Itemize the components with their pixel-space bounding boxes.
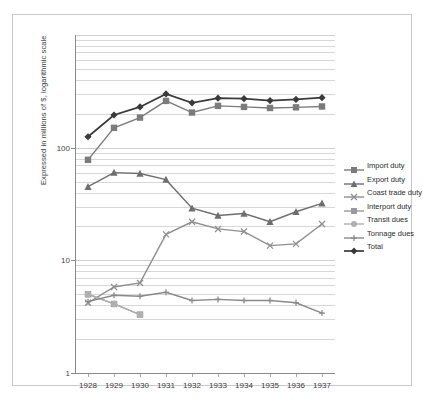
x-axis-line	[75, 373, 335, 374]
series-export-duty	[84, 169, 325, 225]
data-point-diamond	[292, 96, 299, 103]
legend-label: Tonnage dues	[367, 229, 414, 239]
data-point-square	[267, 105, 273, 111]
x-tick-label: 1929	[105, 381, 123, 390]
legend-item-transit-dues[interactable]: Transit dues	[343, 215, 423, 225]
x-tick-label: 1936	[287, 381, 305, 390]
data-point-triangle	[318, 200, 325, 207]
x-tick-label: 1933	[209, 381, 227, 390]
legend-label: Total	[367, 242, 383, 252]
series-total	[84, 90, 325, 140]
legend-label: Import duty	[367, 161, 405, 171]
data-point-square	[351, 167, 357, 173]
y-tick-label: 10	[61, 256, 70, 265]
data-point-x	[319, 221, 325, 227]
data-point-diamond	[136, 103, 143, 110]
legend-item-export-duty[interactable]: Export duty	[343, 175, 423, 185]
series-line	[88, 101, 322, 160]
data-point-circle	[351, 221, 357, 227]
series-line	[88, 292, 322, 313]
data-point-square	[85, 157, 91, 163]
x-tick-label: 1931	[157, 381, 175, 390]
series-import-duty	[85, 98, 325, 163]
data-point-diamond	[188, 99, 195, 106]
legend-marker-triangle-icon	[343, 175, 365, 185]
data-point-square	[215, 103, 221, 109]
chart-legend: Import dutyExport dutyCoast trade dutyIn…	[343, 161, 423, 252]
x-tick-label: 1932	[183, 381, 201, 390]
legend-marker-x-icon	[343, 188, 365, 198]
series-tonnage-dues	[85, 289, 325, 316]
series-coast-trade-duty	[85, 219, 325, 306]
y-axis-title: Expressed in millions of $, logarithmic …	[39, 35, 48, 185]
legend-item-import-duty[interactable]: Import duty	[343, 161, 423, 171]
legend-marker-square-icon	[343, 202, 365, 212]
data-point-plus	[189, 298, 195, 304]
data-point-square	[137, 114, 143, 120]
legend-item-total[interactable]: Total	[343, 242, 423, 252]
data-point-circle	[111, 301, 117, 307]
legend-marker-circle-icon	[343, 215, 365, 225]
data-point-diamond	[318, 94, 325, 101]
legend-label: Export duty	[367, 175, 405, 185]
data-point-plus	[85, 299, 91, 305]
y-tick-label: 1	[66, 369, 70, 378]
x-tick-label: 1935	[261, 381, 279, 390]
data-point-diamond	[351, 248, 358, 255]
series-layer	[75, 35, 335, 373]
chart-frame: Expressed in millions of $, logarithmic …	[12, 14, 412, 386]
data-point-plus	[351, 235, 357, 241]
data-point-x	[163, 231, 169, 237]
legend-label: Interport duty	[367, 202, 411, 212]
data-point-plus	[293, 300, 299, 306]
data-point-square	[189, 109, 195, 115]
data-point-square	[319, 103, 325, 109]
data-point-plus	[241, 298, 247, 304]
legend-marker-square-icon	[343, 161, 365, 171]
chart-page: Expressed in millions of $, logarithmic …	[0, 0, 423, 401]
x-tick-label: 1937	[313, 381, 331, 390]
data-point-plus	[137, 293, 143, 299]
data-point-square	[293, 104, 299, 110]
data-point-diamond	[266, 97, 273, 104]
y-tick-label: 100	[57, 143, 70, 152]
series-line	[88, 173, 322, 222]
x-tick-label: 1928	[79, 381, 97, 390]
data-point-diamond	[240, 95, 247, 102]
series-line	[88, 222, 322, 303]
legend-item-tonnage-dues[interactable]: Tonnage dues	[343, 229, 423, 239]
data-point-square	[163, 98, 169, 104]
plot-area: 110100 192819291930193119321933193419351…	[75, 35, 335, 373]
legend-item-coast-trade-duty[interactable]: Coast trade duty	[343, 188, 423, 198]
data-point-square	[111, 125, 117, 131]
data-point-triangle	[84, 183, 91, 190]
legend-item-interport-duty[interactable]: Interport duty	[343, 202, 423, 212]
legend-marker-plus-icon	[343, 229, 365, 239]
data-point-plus	[267, 298, 273, 304]
data-point-plus	[215, 296, 221, 302]
legend-marker-diamond-icon	[343, 242, 365, 252]
data-point-diamond	[214, 95, 221, 102]
x-tick-label: 1934	[235, 381, 253, 390]
data-point-circle	[85, 291, 91, 297]
data-point-plus	[319, 310, 325, 316]
legend-label: Coast trade duty	[367, 188, 422, 198]
data-point-circle	[137, 311, 143, 317]
data-point-plus	[111, 292, 117, 298]
series-line	[88, 94, 322, 137]
data-point-plus	[163, 289, 169, 295]
data-point-diamond	[162, 90, 169, 97]
data-point-square	[241, 104, 247, 110]
data-point-square	[351, 208, 357, 214]
x-tick-label: 1930	[131, 381, 149, 390]
legend-label: Transit dues	[367, 215, 408, 225]
